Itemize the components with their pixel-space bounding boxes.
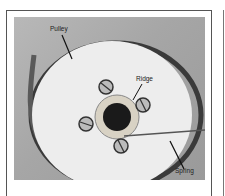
callout-pulley: Pulley [50,26,68,33]
adjacent-figure-edge [223,10,225,196]
screw [99,80,113,94]
pulley-illustration [14,17,205,180]
screw [136,98,150,112]
hub-hole [103,103,131,131]
screw [79,117,93,131]
pulley-photo [14,17,205,180]
screw [114,139,128,153]
callout-ridge: Ridge [136,76,153,83]
callout-spring: Spring [175,168,194,175]
